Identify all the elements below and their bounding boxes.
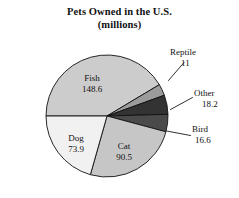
slice-label-cat-name: Cat bbox=[118, 141, 131, 151]
slice-label-bird-value: 16.6 bbox=[192, 135, 211, 146]
pie-chart-figure: Pets Owned in the U.S. (millions) Fish 1… bbox=[0, 0, 239, 198]
leader-lines bbox=[167, 63, 193, 136]
slice-label-dog: Dog 73.9 bbox=[56, 133, 96, 154]
slice-label-dog-value: 73.9 bbox=[56, 144, 96, 155]
slice-label-fish-name: Fish bbox=[84, 73, 100, 83]
slice-label-other-name: Other bbox=[194, 88, 215, 98]
leader-line-bird bbox=[167, 131, 191, 136]
slice-label-fish-value: 148.6 bbox=[70, 84, 114, 95]
slice-label-reptile-value: 11 bbox=[170, 58, 196, 69]
slice-label-bird-name: Bird bbox=[192, 124, 208, 134]
slice-label-other: Other 18.2 bbox=[194, 88, 218, 109]
slice-label-cat-value: 90.5 bbox=[105, 152, 143, 163]
slice-label-reptile: Reptile 11 bbox=[170, 47, 196, 68]
leader-line-other bbox=[171, 98, 193, 110]
slice-label-bird: Bird 16.6 bbox=[192, 124, 211, 145]
slice-label-cat: Cat 90.5 bbox=[105, 141, 143, 162]
slice-label-dog-name: Dog bbox=[68, 133, 84, 143]
slice-label-other-value: 18.2 bbox=[194, 99, 218, 110]
slice-label-fish: Fish 148.6 bbox=[70, 73, 114, 94]
slice-label-reptile-name: Reptile bbox=[170, 47, 196, 57]
